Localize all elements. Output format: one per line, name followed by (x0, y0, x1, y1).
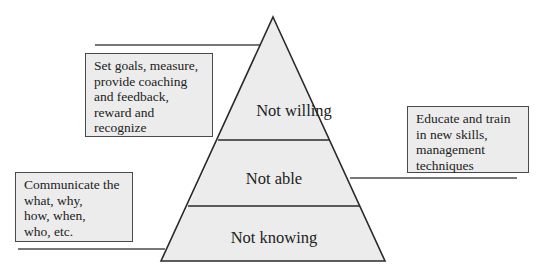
callout-text-line: Educate and train (416, 111, 520, 127)
tier-label-not-knowing: Not knowing (231, 228, 318, 248)
callout-text-line: management (416, 142, 520, 158)
tier-label-not-able: Not able (246, 169, 302, 189)
callout-box-not-able: Educate and train in new skills, managem… (407, 106, 529, 173)
callout-text-line: techniques (416, 158, 520, 174)
callout-text-line: in new skills, (416, 127, 520, 143)
callout-text-line: provide coaching (94, 74, 204, 90)
callout-text-line: Communicate the (24, 177, 124, 193)
callout-text-line: who, etc. (24, 224, 124, 240)
callout-box-not-willing: Set goals, measure, provide coaching and… (85, 53, 213, 137)
callout-text-line: recognize (94, 120, 204, 136)
callout-text-line: reward and (94, 105, 204, 121)
callout-box-not-knowing: Communicate the what, why, how, when, wh… (15, 172, 133, 242)
callout-text-line: what, why, (24, 193, 124, 209)
callout-text-line: how, when, (24, 208, 124, 224)
pyramid-tier-not-willing (218, 17, 330, 140)
callout-text-line: Set goals, measure, (94, 58, 204, 74)
callout-text-line: and feedback, (94, 89, 204, 105)
tier-label-not-willing: Not willing (256, 101, 332, 121)
